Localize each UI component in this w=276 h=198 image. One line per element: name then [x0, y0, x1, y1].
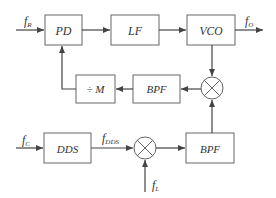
- signal-fdds-label: fDDS: [102, 131, 119, 146]
- bpf-upper-label: BPF: [146, 83, 166, 95]
- lf-label: LF: [127, 24, 143, 38]
- bpf-lower-label: BPF: [200, 143, 220, 155]
- dds-label: DDS: [56, 143, 79, 155]
- mixer-upper: [201, 77, 223, 99]
- pll-dds-block-diagram: PD LF VCO BPF ÷ M DDS BPF fR fO fC fDDS …: [0, 0, 276, 198]
- signal-fc-label: fC: [22, 133, 30, 148]
- vco-label: VCO: [200, 25, 224, 37]
- signal-fo-label: fO: [245, 14, 253, 29]
- signal-fl-label: fL: [152, 178, 159, 193]
- divider-label: ÷ M: [87, 83, 106, 95]
- arrow-divider-to-pd: [62, 46, 76, 89]
- pd-label: PD: [55, 24, 72, 38]
- signal-fr-label: fR: [24, 14, 32, 29]
- mixer-lower: [134, 137, 156, 159]
